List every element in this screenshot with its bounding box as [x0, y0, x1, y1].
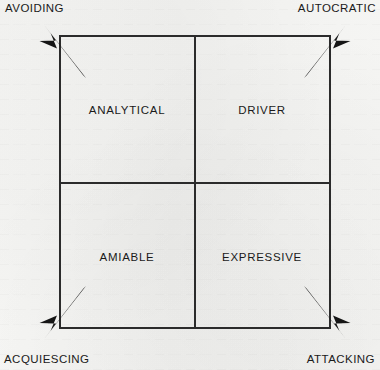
corner-label-autocratic: AUTOCRATIC [298, 2, 376, 14]
arrow-down-left-icon [40, 286, 87, 339]
corner-label-attacking: ATTACKING [307, 353, 375, 365]
arrow-down-right-icon [304, 286, 351, 339]
arrow-up-left-icon [40, 26, 87, 79]
quadrant-label-driver: DRIVER [238, 104, 286, 116]
grid-svg [0, 0, 380, 370]
quadrant-label-analytical: ANALYTICAL [89, 104, 165, 116]
quadrant-label-expressive: EXPRESSIVE [222, 251, 302, 263]
corner-label-avoiding: AVOIDING [5, 2, 64, 14]
corner-label-acquiescing: ACQUIESCING [4, 353, 89, 365]
quadrant-label-amiable: AMIABLE [100, 251, 155, 263]
arrow-up-right-icon [304, 26, 351, 79]
social-styles-grid-figure: AVOIDING AUTOCRATIC ACQUIESCING ATTACKIN… [0, 0, 380, 370]
